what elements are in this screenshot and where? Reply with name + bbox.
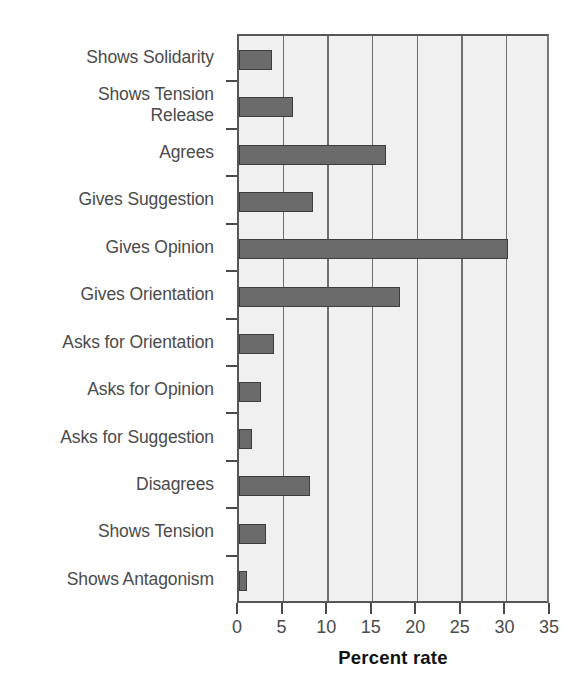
value-tick (370, 603, 372, 614)
value-tick (281, 603, 283, 614)
bar (239, 287, 400, 307)
category-tick (226, 555, 237, 557)
category-tick (226, 223, 237, 225)
value-tick (414, 603, 416, 614)
bar (239, 476, 310, 496)
bars-layer (239, 36, 547, 601)
value-tick (236, 603, 238, 614)
x-axis-title: Percent rate (237, 647, 549, 669)
category-label: Agrees (0, 142, 214, 163)
bar (239, 571, 247, 591)
category-label: Shows Tension (0, 521, 214, 542)
category-axis-labels: Shows SolidarityShows Tension ReleaseAgr… (0, 34, 220, 603)
bar (239, 145, 386, 165)
category-tick (226, 318, 237, 320)
category-label: Asks for Orientation (0, 332, 214, 353)
value-tick (459, 603, 461, 614)
value-tick (325, 603, 327, 614)
category-tick (226, 460, 237, 462)
bar (239, 429, 252, 449)
bar (239, 97, 293, 117)
category-label: Gives Suggestion (0, 189, 214, 210)
category-label: Gives Opinion (0, 237, 214, 258)
category-axis-ticks (226, 34, 237, 603)
category-tick (226, 412, 237, 414)
category-label: Shows Antagonism (0, 569, 214, 590)
category-tick (226, 365, 237, 367)
bar (239, 382, 261, 402)
bar-chart: Shows SolidarityShows Tension ReleaseAgr… (0, 0, 585, 700)
category-tick (226, 507, 237, 509)
category-label: Shows Solidarity (0, 47, 214, 68)
bar (239, 334, 274, 354)
bar (239, 50, 272, 70)
category-tick (226, 175, 237, 177)
value-axis-ticks (237, 603, 549, 615)
category-label: Asks for Opinion (0, 379, 214, 400)
category-label: Shows Tension Release (0, 84, 214, 126)
value-tick (548, 603, 550, 614)
plot-area (237, 34, 549, 603)
category-label: Disagrees (0, 474, 214, 495)
bar (239, 239, 508, 259)
category-tick (226, 270, 237, 272)
category-tick (226, 128, 237, 130)
value-tick (503, 603, 505, 614)
value-axis-tick-labels: 05101520253035 (0, 616, 585, 642)
category-label: Asks for Suggestion (0, 427, 214, 448)
bar (239, 192, 313, 212)
category-tick (226, 80, 237, 82)
value-tick-label: 35 (519, 616, 579, 638)
category-label: Gives Orientation (0, 284, 214, 305)
bar (239, 524, 266, 544)
